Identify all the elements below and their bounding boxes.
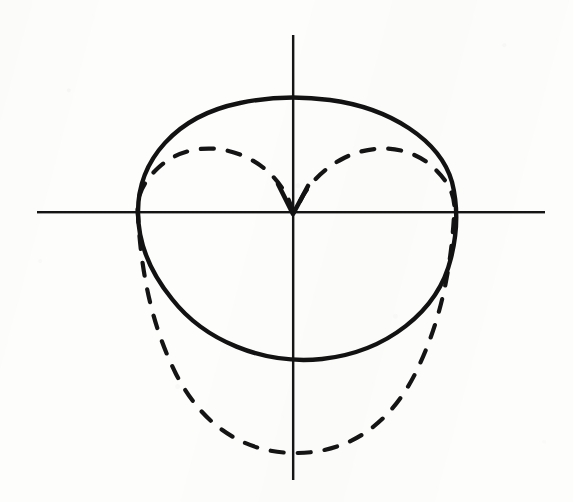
figure-page [0, 0, 573, 502]
dashed-cardioid-curve [138, 149, 455, 453]
solid-oval-curve [138, 98, 456, 360]
polar-figure [0, 0, 573, 502]
